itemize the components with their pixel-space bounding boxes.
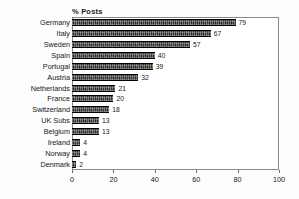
bar-row: France20 [0, 94, 299, 105]
bar-row: Netherlands21 [0, 83, 299, 94]
bar-value-label: 4 [83, 150, 87, 157]
bar-wrapper: 39 [72, 61, 279, 72]
bar [72, 41, 190, 48]
bar-value-label: 40 [158, 52, 166, 59]
bar [72, 74, 138, 81]
bar [72, 95, 113, 102]
category-label: UK Subs [4, 116, 72, 125]
bar-row: Germany79 [0, 17, 299, 28]
bar-wrapper: 67 [72, 28, 279, 39]
category-label: Austria [4, 73, 72, 82]
bar-value-label: 2 [79, 161, 83, 168]
bar-value-label: 79 [239, 19, 247, 26]
x-tick-label: 80 [234, 175, 242, 184]
category-label: Denmark [4, 160, 72, 169]
bar-row: Switzerland18 [0, 104, 299, 115]
bar-value-label: 39 [156, 63, 164, 70]
bar-wrapper: 4 [72, 137, 279, 148]
chart-title: % Posts [72, 7, 103, 16]
category-label: Spain [4, 51, 72, 60]
bar-wrapper: 4 [72, 148, 279, 159]
bar [72, 150, 80, 157]
bar-wrapper: 32 [72, 72, 279, 83]
bar-row: Portugal39 [0, 61, 299, 72]
x-tick-mark [196, 170, 197, 173]
bar-row: Ireland4 [0, 137, 299, 148]
bar [72, 106, 109, 113]
bar-value-label: 20 [116, 95, 124, 102]
bar-rows-container: Germany79Italy67Sweden57Spain40Portugal3… [0, 17, 299, 170]
bar [72, 139, 80, 146]
bar [72, 19, 236, 26]
bar-wrapper: 18 [72, 104, 279, 115]
bar-row: Spain40 [0, 50, 299, 61]
bar-value-label: 13 [102, 128, 110, 135]
x-tick-label: 100 [273, 175, 285, 184]
bar [72, 161, 76, 168]
bar-row: Norway4 [0, 148, 299, 159]
bar-value-label: 18 [112, 106, 120, 113]
bar-wrapper: 21 [72, 83, 279, 94]
x-tick-mark [279, 170, 280, 173]
bar-value-label: 32 [141, 74, 149, 81]
x-axis: 020406080100 [72, 170, 279, 192]
x-tick-mark [155, 170, 156, 173]
bar-wrapper: 40 [72, 50, 279, 61]
bar-value-label: 67 [214, 30, 222, 37]
category-label: Netherlands [4, 84, 72, 93]
category-label: Portugal [4, 62, 72, 71]
category-label: Ireland [4, 138, 72, 147]
bar-row: Belgium13 [0, 126, 299, 137]
bar [72, 85, 115, 92]
bar-row: Denmark2 [0, 159, 299, 170]
category-label: Norway [4, 149, 72, 158]
bar-wrapper: 13 [72, 115, 279, 126]
category-label: Belgium [4, 127, 72, 136]
bar-row: Sweden57 [0, 39, 299, 50]
bar-value-label: 21 [118, 85, 126, 92]
bar-row: Austria32 [0, 72, 299, 83]
bar-value-label: 13 [102, 117, 110, 124]
x-tick-label: 20 [109, 175, 117, 184]
x-tick-label: 60 [192, 175, 200, 184]
x-tick-mark [72, 170, 73, 173]
bar [72, 30, 211, 37]
bar-value-label: 4 [83, 139, 87, 146]
x-tick-label: 0 [70, 175, 74, 184]
bar [72, 52, 155, 59]
bar-row: Italy67 [0, 28, 299, 39]
bar-wrapper: 79 [72, 17, 279, 28]
category-label: Switzerland [4, 105, 72, 114]
bar-wrapper: 20 [72, 94, 279, 105]
bar-wrapper: 57 [72, 39, 279, 50]
bar [72, 117, 99, 124]
category-label: Germany [4, 18, 72, 27]
bar [72, 63, 153, 70]
x-tick-mark [113, 170, 114, 173]
x-tick-mark [238, 170, 239, 173]
category-label: France [4, 94, 72, 103]
bar-row: UK Subs13 [0, 115, 299, 126]
bar-value-label: 57 [193, 41, 201, 48]
category-label: Sweden [4, 40, 72, 49]
x-tick-label: 40 [151, 175, 159, 184]
bar-wrapper: 13 [72, 126, 279, 137]
category-label: Italy [4, 29, 72, 38]
bar [72, 128, 99, 135]
chart-screenshot: % Posts Germany79Italy67Sweden57Spain40P… [0, 0, 299, 199]
bar-wrapper: 2 [72, 159, 279, 170]
